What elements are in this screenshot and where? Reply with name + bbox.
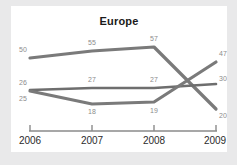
line-series-upper [30,47,216,109]
data-label-middle-2009: 30 [219,75,227,82]
data-label-middle-2006: 26 [19,79,27,86]
x-tick-label-2007: 2007 [81,135,104,146]
data-label-upper-2008: 57 [150,35,158,42]
x-axis-title: Year [109,150,128,152]
data-label-lower-2006: 25 [19,95,27,102]
chart-card: Europe 50 55 57 20 26 27 27 30 [11,6,227,152]
x-tick-label-2006: 2006 [19,135,42,146]
chart-figure: Europe 50 55 57 20 26 27 27 30 [0,0,237,165]
line-chart-plot: 50 55 57 20 26 27 27 30 25 18 19 47 2006… [11,6,227,152]
line-series-middle [30,84,216,90]
data-label-upper-2006: 50 [19,46,27,53]
data-label-middle-2008: 27 [150,76,158,83]
data-label-lower-2009: 47 [219,50,227,57]
x-tick-label-2008: 2008 [143,135,166,146]
data-label-lower-2007: 18 [88,108,96,115]
data-label-upper-2007: 55 [88,39,96,46]
data-label-middle-2007: 27 [88,76,96,83]
data-label-lower-2008: 19 [150,107,158,114]
x-tick-label-2009: 2009 [204,135,227,146]
data-label-upper-2009: 20 [219,112,227,119]
